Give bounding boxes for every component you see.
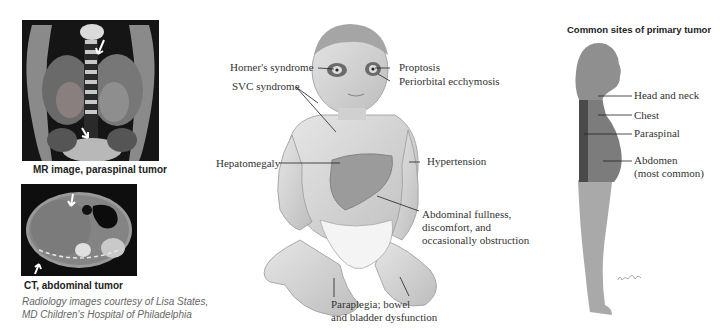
site-chest: Chest [634,109,659,122]
site-paraspinal: Paraspinal [634,127,680,140]
child-silhouette [0,0,720,332]
site-head-and-neck: Head and neck [634,89,699,102]
site-abdomen: Abdomen (most common) [634,154,704,180]
signature-icon [618,276,641,281]
